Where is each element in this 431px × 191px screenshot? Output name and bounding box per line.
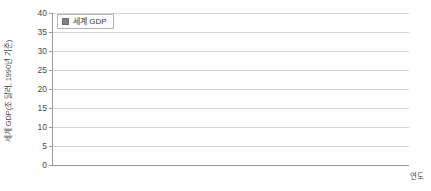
- legend-item-label: 세계 GDP: [73, 17, 107, 26]
- y-axis-tick-label: 5: [7, 142, 47, 151]
- bar-series: [53, 13, 409, 165]
- y-axis-tick-label: 40: [7, 9, 47, 18]
- y-axis-tick-label: 0: [7, 161, 47, 170]
- y-axis-tick-mark: [49, 89, 53, 90]
- y-axis-tick-mark: [49, 146, 53, 147]
- filled-square-marker-icon: [62, 18, 69, 25]
- y-axis-tick-label: 30: [7, 47, 47, 56]
- y-axis-tick-mark: [49, 108, 53, 109]
- y-axis-tick-label: 35: [7, 28, 47, 37]
- y-axis-tick-label: 20: [7, 85, 47, 94]
- y-axis-tick-mark: [49, 32, 53, 33]
- y-axis-tick-label: 15: [7, 104, 47, 113]
- y-axis-tick-label: 25: [7, 66, 47, 75]
- y-axis-tick-mark: [49, 51, 53, 52]
- y-axis-tick-mark: [49, 13, 53, 14]
- y-axis-tick-mark: [49, 70, 53, 71]
- y-axis-tick-mark: [49, 127, 53, 128]
- bar-chart: 세계 GDP(조 달러, 1990년 기준) 0510152025303540 …: [0, 0, 431, 191]
- x-axis-title: 연도: [410, 172, 424, 182]
- plot-area: 0510152025303540: [52, 13, 409, 166]
- y-axis-tick-label: 10: [7, 123, 47, 132]
- chart-legend: 세계 GDP: [57, 14, 114, 29]
- y-axis-tick-mark: [49, 165, 53, 166]
